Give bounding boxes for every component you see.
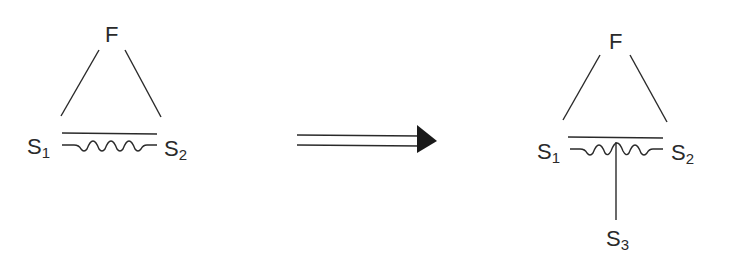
- left-straight-bond: [62, 133, 157, 134]
- left-f-s1-line: [61, 50, 99, 116]
- right-diagram: F S1 S2 S3: [537, 29, 694, 253]
- left-s2-label: S2: [164, 136, 187, 163]
- right-s2-label: S2: [671, 140, 694, 167]
- right-f-s1-line: [563, 55, 600, 120]
- right-s1-label: S1: [537, 139, 560, 166]
- right-s3-label: S3: [606, 226, 629, 253]
- arrow-shaft-lower: [297, 145, 420, 146]
- right-straight-bond: [568, 137, 663, 138]
- left-diagram: F S1 S2: [27, 22, 187, 163]
- right-f-label: F: [609, 29, 622, 54]
- left-s1-label: S1: [27, 134, 50, 161]
- left-f-s2-line: [125, 50, 161, 117]
- diagram-canvas: F S1 S2 F S1 S2 S3: [0, 0, 729, 263]
- left-wavy-bond: [62, 141, 157, 151]
- left-f-label: F: [105, 22, 118, 47]
- transformation-arrow: [297, 125, 437, 153]
- arrow-head-icon: [417, 125, 437, 153]
- right-f-s2-line: [630, 55, 667, 122]
- arrow-shaft-upper: [297, 135, 420, 136]
